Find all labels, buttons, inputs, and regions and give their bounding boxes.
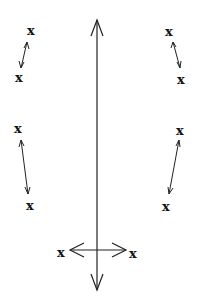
marker-mid-right-upper: x bbox=[176, 124, 184, 137]
marker-top-right-lower: x bbox=[177, 73, 185, 86]
marker-top-left-upper: x bbox=[27, 24, 35, 37]
small-double-arrow-mid-left bbox=[19, 140, 30, 194]
marker-mid-left-upper: x bbox=[14, 122, 22, 135]
marker-mid-left-lower: x bbox=[26, 199, 34, 212]
marker-bottom-right: x bbox=[129, 247, 137, 260]
small-double-arrow-mid-right bbox=[168, 140, 180, 194]
small-double-arrow-top-right bbox=[171, 42, 181, 68]
marker-top-right-upper: x bbox=[165, 25, 173, 38]
small-double-arrow-top-left bbox=[19, 42, 29, 68]
marker-mid-right-lower: x bbox=[162, 200, 170, 213]
horizontal-arrow bbox=[70, 243, 126, 257]
diagram-canvas bbox=[0, 0, 197, 300]
marker-top-left-lower: x bbox=[15, 71, 23, 84]
marker-bottom-left: x bbox=[57, 246, 65, 259]
